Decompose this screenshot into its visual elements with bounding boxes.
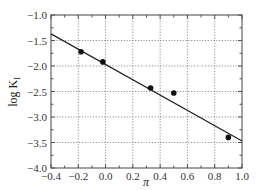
y-axis-label: log KI <box>6 77 22 107</box>
data-point <box>148 85 154 91</box>
y-tick-label: −3.0 <box>27 111 47 123</box>
y-tick-label: −3.5 <box>27 137 47 149</box>
y-tick-label: −1.0 <box>27 9 47 21</box>
x-tick-label: 0.6 <box>181 170 195 182</box>
x-tick-label: 0.2 <box>126 170 140 182</box>
y-axis-label-subscript: I <box>13 77 22 80</box>
data-point <box>171 90 177 96</box>
data-point <box>78 49 84 55</box>
scatter-chart: −0.4−0.20.00.20.40.60.81.0 −1.0−1.5−2.0−… <box>0 0 257 190</box>
data-points <box>78 49 231 140</box>
data-point <box>226 135 232 141</box>
x-tick-label: 0.0 <box>99 170 113 182</box>
x-tick-label: 0.4 <box>153 170 167 182</box>
gridlines <box>51 15 242 168</box>
x-tick-label: 0.8 <box>208 170 222 182</box>
y-tick-label: −2.0 <box>27 60 47 72</box>
y-tick-labels: −1.0−1.5−2.0−2.5−3.0−3.5−4.0 <box>27 9 47 174</box>
y-tick-label: −4.0 <box>27 162 47 174</box>
x-tick-label: 1.0 <box>235 170 249 182</box>
data-point <box>100 59 106 65</box>
x-axis-label: π <box>143 175 150 189</box>
x-tick-label: −0.2 <box>68 170 88 182</box>
y-tick-label: −1.5 <box>27 35 47 47</box>
y-tick-label: −2.5 <box>27 86 47 98</box>
y-axis-label-main: log K <box>6 80 20 107</box>
